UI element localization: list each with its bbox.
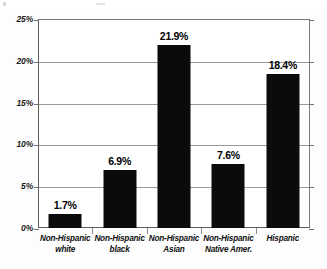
- x-axis-category-labels: Non-HispanicwhiteNon-HispanicblackNon-Hi…: [38, 234, 310, 264]
- bar[interactable]: [103, 170, 136, 228]
- category-label: Non-HispanicAsian: [147, 234, 201, 255]
- y-axis-tick-label: 10%: [0, 139, 33, 149]
- bar-slot: 6.9%: [92, 19, 146, 228]
- bar[interactable]: [212, 164, 245, 228]
- scan-artifact-band: [0, 0, 327, 9]
- bar[interactable]: [49, 214, 82, 228]
- bar-slot: 7.6%: [201, 19, 255, 228]
- y-axis-tick-label: 25%: [0, 14, 33, 24]
- bar-value-label: 6.9%: [108, 155, 131, 167]
- y-axis-tick-label: 5%: [0, 181, 33, 191]
- bar-value-label: 7.6%: [217, 149, 240, 161]
- y-axis-tick-label: 15%: [0, 98, 33, 108]
- y-axis-tick-mark: [309, 229, 314, 230]
- y-axis-tick-label: 0%: [0, 223, 33, 233]
- bar[interactable]: [266, 74, 299, 228]
- bar[interactable]: [157, 45, 190, 228]
- bar-value-label: 1.7%: [54, 199, 77, 211]
- bars-layer: 1.7%6.9%21.9%7.6%18.4%: [38, 19, 310, 228]
- category-label: Non-Hispanicblack: [92, 234, 146, 255]
- bar-chart: 0%5%10%15%20%25% 1.7%6.9%21.9%7.6%18.4% …: [0, 0, 327, 269]
- category-label: Non-HispanicNative Amer.: [201, 234, 255, 255]
- bar-slot: 18.4%: [256, 19, 310, 228]
- y-axis-tick-mark: [34, 229, 39, 230]
- bar-slot: 21.9%: [147, 19, 201, 228]
- bar-value-label: 21.9%: [160, 30, 188, 42]
- category-label: Non-Hispanicwhite: [38, 234, 92, 255]
- bar-slot: 1.7%: [38, 19, 92, 228]
- category-label: Hispanic: [256, 234, 310, 245]
- y-axis-tick-label: 20%: [0, 56, 33, 66]
- bar-value-label: 18.4%: [269, 59, 297, 71]
